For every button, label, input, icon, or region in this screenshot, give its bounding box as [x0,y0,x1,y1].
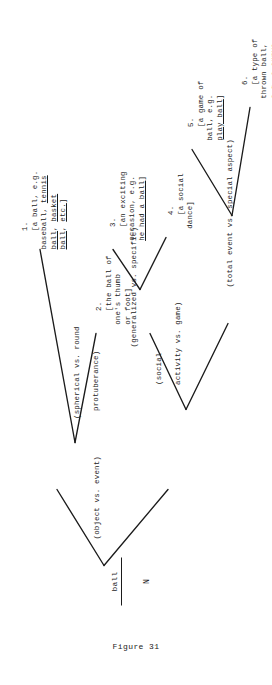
branch-label-spherical-vs-round-protuberance: (spherical vs. round protuberance) [64,326,111,437]
leaf-node-sense-6: 6. [a type of thrown ball, e.g. a curve … [232,38,272,103]
root-word: ball [111,557,122,605]
sense-text: [a type of thrown ball, e.g. a curve bal… [251,38,272,103]
sense-number: 5. [187,117,195,126]
leaf-node-sense-3: 3. [an exciting occasion, e.g. he had a … [100,171,156,245]
leaf-node-sense-1: 1. [a ball, e.g. baseball, tennis ball, … [12,170,78,249]
branch-label-line-1: (social [155,352,163,384]
branch-label-object-vs-event: (object vs. event) [93,456,102,539]
leaf-node-sense-5: 5. [a game of ball, e.g. play ball] [178,80,234,145]
edge-root-to-event [104,489,168,565]
sense-text: [the ball of one's thumb or foot] [105,255,132,329]
sense-number: 2. [95,301,103,310]
sense-number: 4. [167,205,175,214]
sense-text: [a ball, e.g. baseball, tennis ball, bas… [31,170,67,249]
branch-label-line-2: protuberance) [92,350,101,410]
branch-label-total-event-vs-special-aspect: (total event vs. special aspect) [226,139,235,287]
branch-label-line-2: activity vs. game) [174,301,182,384]
root-node: ball N [92,557,171,605]
sense-number: 3. [109,217,117,226]
branch-label-line-1: (spherical vs. round [73,326,81,419]
branch-label-social-activity-vs-game: (social activity vs. game) [146,301,193,403]
sense-text: [a game of ball, e.g. play ball] [197,80,224,145]
sense-number: 6. [241,75,249,84]
sense-number: 1. [21,221,29,230]
leaf-node-sense-4: 4. [a social dance] [158,173,205,233]
leaf-node-sense-2: 2. [the ball of one's thumb or foot] [86,255,142,329]
sense-text: [an exciting occasion, e.g. he had a bal… [119,171,146,245]
root-part-of-speech: N [141,557,151,605]
sense-text: [a social dance] [177,173,194,233]
semantic-tree-figure: ball N (object vs. event) (spherical vs.… [0,0,272,685]
